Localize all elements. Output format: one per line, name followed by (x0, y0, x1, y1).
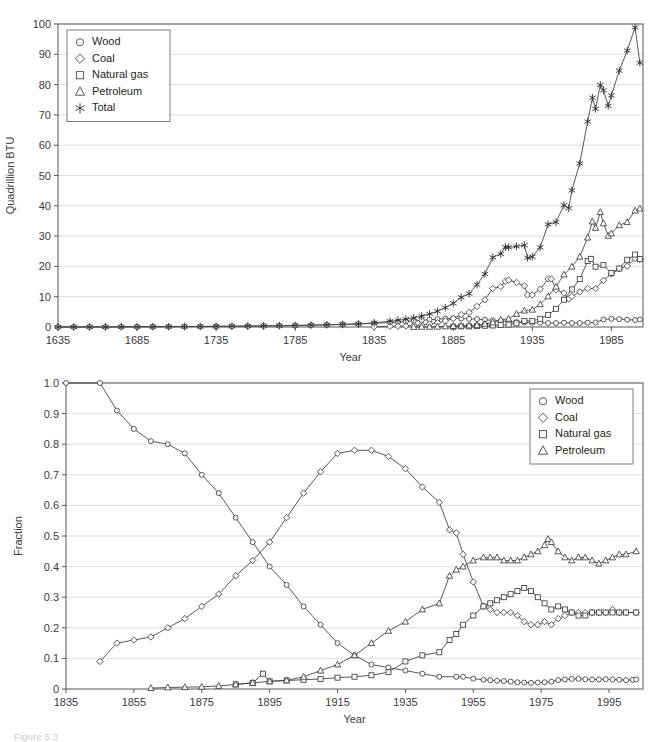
y-tick-label: 0.1 (44, 652, 59, 664)
x-tick-label: 1975 (529, 696, 553, 708)
y-tick-label: 20 (39, 260, 51, 272)
y-tick-label: 0.7 (44, 469, 59, 481)
x-tick-label: 1915 (325, 696, 349, 708)
x-tick-label: 1635 (46, 334, 70, 346)
x-tick-label: 1735 (204, 334, 228, 346)
y-tick-label: 80 (39, 79, 51, 91)
legend-item-label: Wood (92, 35, 121, 47)
x-tick-label: 1895 (257, 696, 281, 708)
x-tick-label: 1685 (125, 334, 149, 346)
bottom-chart-svg: 00.10.20.30.40.50.60.70.80.91.0Fraction1… (0, 368, 661, 740)
y-tick-label: 0 (53, 683, 59, 695)
legend-item-label: Natural gas (92, 68, 149, 80)
y-tick-label: 1.0 (44, 377, 59, 389)
x-tick-label: 1955 (461, 696, 485, 708)
legend-item-label: Wood (555, 394, 584, 406)
legend-item-label: Coal (92, 52, 115, 64)
y-tick-label: 0.8 (44, 438, 59, 450)
x-tick-label: 1855 (122, 696, 146, 708)
x-tick-label: 1835 (54, 696, 78, 708)
x-tick-label: 1885 (441, 334, 465, 346)
legend-item-label: Petroleum (555, 444, 605, 456)
y-tick-label: 0.4 (44, 561, 59, 573)
y-axis: 00.10.20.30.40.50.60.70.80.91.0 (44, 377, 66, 695)
chart-panel-quadrillion-btu: 0102030405060708090100Quadrillion BTU163… (0, 0, 661, 368)
y-tick-label: 90 (39, 48, 51, 60)
x-tick-label: 1995 (597, 696, 621, 708)
legend: WoodCoalNatural gasPetroleumTotal (67, 30, 170, 122)
y-tick-label: 30 (39, 230, 51, 242)
series-natural-gas (233, 586, 639, 687)
y-tick-label: 10 (39, 291, 51, 303)
y-tick-label: 60 (39, 139, 51, 151)
y-axis: 0102030405060708090100 (33, 18, 58, 333)
x-tick-label: 1835 (362, 334, 386, 346)
y-tick-label: 0.5 (44, 530, 59, 542)
legend: WoodCoalNatural gasPetroleum (530, 389, 633, 464)
y-tick-label: 0 (45, 321, 51, 333)
x-tick-label: 1985 (599, 334, 623, 346)
y-axis-title: Quadrillion BTU (4, 137, 16, 215)
y-tick-label: 100 (33, 18, 51, 30)
legend-item-label: Petroleum (92, 85, 142, 97)
y-tick-label: 0.9 (44, 408, 59, 420)
y-tick-label: 0.6 (44, 499, 59, 511)
series-coal (97, 447, 640, 665)
legend-item-label: Total (92, 101, 115, 113)
y-axis-title: Fraction (12, 516, 24, 556)
legend-item-label: Natural gas (555, 427, 612, 439)
y-tick-label: 0.2 (44, 622, 59, 634)
y-tick-label: 0.3 (44, 591, 59, 603)
legend-item-label: Coal (555, 411, 578, 423)
x-tick-label: 1875 (190, 696, 214, 708)
top-chart-svg: 0102030405060708090100Quadrillion BTU163… (0, 0, 661, 368)
x-axis-title: Year (343, 713, 366, 725)
y-tick-label: 70 (39, 109, 51, 121)
x-axis: 183518551875189519151935195519751995 (54, 689, 622, 708)
x-tick-label: 1935 (393, 696, 417, 708)
y-tick-label: 40 (39, 200, 51, 212)
x-tick-label: 1785 (283, 334, 307, 346)
x-axis: 16351685173517851835188519351985 (46, 327, 624, 346)
x-tick-label: 1935 (520, 334, 544, 346)
y-tick-label: 50 (39, 170, 51, 182)
figure-caption: Figure 5.3 (14, 732, 59, 742)
chart-panel-fraction: 00.10.20.30.40.50.60.70.80.91.0Fraction1… (0, 368, 661, 740)
x-axis-title: Year (339, 351, 362, 363)
